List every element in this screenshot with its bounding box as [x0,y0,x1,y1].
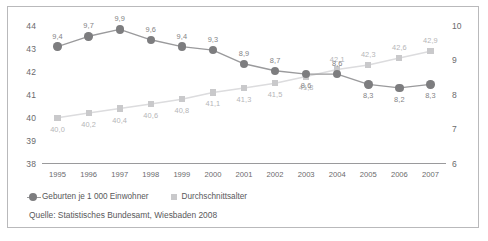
data-point-durchschnittsalter [179,96,185,102]
data-point-geburten [147,36,155,44]
data-point-durchschnittsalter [241,85,247,91]
legend-item-geburten: Geburten je 1 000 Einwohner [29,192,149,201]
chart-legend: Geburten je 1 000 Einwohner Durchschnitt… [29,192,247,201]
data-point-geburten [271,67,279,75]
data-point-geburten [116,25,124,33]
data-label-durchschnittsalter: 40,8 [165,106,199,115]
y-axis-left-tick: 41 [14,90,36,100]
data-label-geburten: 8,9 [227,49,261,58]
legend-item-durchschnittsalter: Durchschnittsalter [171,192,248,201]
data-label-durchschnittsalter: 41,5 [258,90,292,99]
y-axis-right-tick: 10 [452,21,474,31]
y-axis-left-tick: 44 [14,21,36,31]
data-label-geburten: 9,9 [103,14,137,23]
data-label-durchschnittsalter: 41,1 [196,99,230,108]
data-point-durchschnittsalter [54,115,60,121]
data-point-durchschnittsalter [272,80,278,86]
data-point-durchschnittsalter [86,110,92,116]
data-label-geburten: 9,4 [41,32,75,41]
data-label-durchschnittsalter: 41,3 [227,95,261,104]
y-axis-left-tick: 43 [14,44,36,54]
data-point-durchschnittsalter [427,48,433,54]
source-note: Quelle: Statistisches Bundesamt, Wiesbad… [29,210,217,220]
data-point-durchschnittsalter [117,105,123,111]
legend-label-durchschnittsalter: Durchschnittsalter [182,192,248,201]
data-point-geburten [178,42,186,50]
data-label-geburten: 8,3 [413,91,447,100]
legend-label-geburten: Geburten je 1 000 Einwohner [42,192,149,201]
data-label-geburten: 8,7 [258,56,292,65]
data-point-durchschnittsalter [210,89,216,95]
y-axis-left-tick: 40 [14,113,36,123]
y-axis-right-tick: 6 [452,159,474,169]
y-axis-right-tick: 9 [452,55,474,65]
data-label-durchschnittsalter: 40,4 [103,116,137,125]
y-axis-left-tick: 42 [14,67,36,77]
data-label-geburten: 8,6 [320,59,354,68]
data-label-geburten: 8,3 [351,91,385,100]
y-axis-left-tick: 39 [14,136,36,146]
data-point-geburten [364,80,372,88]
data-point-durchschnittsalter [396,55,402,61]
data-label-durchschnittsalter: 40,2 [72,120,106,129]
data-label-durchschnittsalter: 42,9 [413,36,447,45]
y-axis-right-tick: 8 [452,90,474,100]
square-marker-icon [171,194,177,200]
data-label-geburten: 9,6 [134,25,168,34]
data-point-geburten [53,42,61,50]
data-label-durchschnittsalter: 40,0 [41,125,75,134]
data-label-geburten: 9,4 [165,32,199,41]
data-point-durchschnittsalter [148,101,154,107]
circle-marker-icon [29,193,37,201]
data-label-geburten: 9,7 [72,21,106,30]
data-label-durchschnittsalter: 42,3 [351,50,385,59]
y-axis-left-tick: 38 [14,159,36,169]
data-label-geburten: 8,6 [289,81,323,90]
data-label-durchschnittsalter: 42,6 [382,43,416,52]
data-point-geburten [426,80,434,88]
data-label-geburten: 9,3 [196,35,230,44]
data-point-durchschnittsalter [365,62,371,68]
x-axis-tick: 2007 [410,170,450,179]
data-point-geburten [84,32,92,40]
chart-figure: 44434241403938 109876 199519961997199819… [0,0,488,241]
data-label-durchschnittsalter: 40,6 [134,111,168,120]
data-point-geburten [395,84,403,92]
y-axis-right-tick: 7 [452,124,474,134]
data-label-geburten: 8,2 [382,95,416,104]
